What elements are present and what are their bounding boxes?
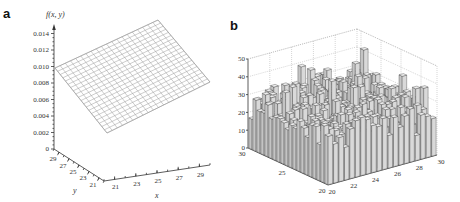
z-tick-label: 0: [46, 145, 50, 153]
z-tick-label: 20: [238, 109, 246, 117]
z-tick-label: 0.006: [33, 96, 49, 104]
z-tick-label: 50: [238, 55, 246, 63]
x-tick-label: 28: [416, 164, 424, 172]
y-minor-tick: [88, 171, 89, 173]
x-tick-label: 25: [155, 177, 163, 185]
y-minor-tick: [78, 165, 79, 167]
panel-a-label: a: [3, 6, 11, 21]
panel-b: b 01020304050202224262830202530: [230, 18, 445, 196]
x-tick-label: 20: [329, 188, 337, 196]
x-tick-label: 29: [197, 171, 205, 179]
figure: a f(x, y) 00.0020.0040.0060.0080.0100.01…: [0, 0, 460, 202]
y-minor-tick: [73, 162, 74, 164]
surface-mesh: [55, 20, 210, 133]
z-ticks: 00.0020.0040.0060.0080.0100.0120.014: [33, 30, 54, 154]
z-axis-title: f(x, y): [46, 10, 65, 19]
y-minor-tick: [98, 178, 99, 180]
panel-a: a f(x, y) 00.0020.0040.0060.0080.0100.01…: [3, 6, 210, 200]
z-tick-label: 0.004: [33, 112, 49, 120]
y-tick-label: 21: [90, 181, 98, 189]
z-tick-label: 40: [238, 73, 246, 81]
x-axis-title: x: [154, 191, 159, 200]
top-edge: [248, 29, 357, 59]
z-tick-label: 0.012: [33, 46, 49, 54]
y-tick-label: 30: [239, 150, 247, 158]
y-minor-tick: [103, 181, 104, 183]
y-tick-label: 25: [279, 169, 287, 177]
z-axis-arrow-icon: [52, 24, 56, 30]
y-minor-tick: [63, 155, 64, 157]
y-tick-label: 27: [60, 162, 68, 170]
bars: [249, 47, 436, 184]
z-tick-label: 0.014: [33, 30, 49, 38]
x-tick-label: 30: [438, 158, 446, 166]
panel-b-label: b: [230, 18, 238, 33]
top-edge: [357, 29, 437, 66]
y-minor-tick: [68, 159, 69, 161]
z-tick-label: 10: [238, 127, 246, 135]
y-axis-title: y: [72, 186, 77, 195]
z-tick-label: 30: [238, 91, 246, 99]
x-tick-label: 26: [394, 170, 402, 178]
x-tick-label: 24: [372, 176, 380, 184]
y-minor-tick: [93, 175, 94, 177]
x-tick-label: 27: [176, 174, 184, 182]
y-minor-tick: [58, 152, 59, 154]
z-tick-label: 0.010: [33, 63, 49, 71]
x-tick-label: 21: [112, 183, 120, 191]
y-minor-tick: [83, 168, 84, 170]
bar: [325, 134, 333, 185]
y-tick-label: 29: [50, 155, 58, 163]
z-tick-label: 0.008: [33, 79, 49, 87]
z-tick-label: 0.002: [33, 129, 49, 137]
y-tick-label: 25: [70, 168, 78, 176]
y-tick-label: 23: [80, 174, 88, 182]
x-tick-label: 22: [350, 182, 358, 190]
x-tick-label: 23: [133, 180, 141, 188]
y-tick-label: 20: [319, 187, 327, 195]
